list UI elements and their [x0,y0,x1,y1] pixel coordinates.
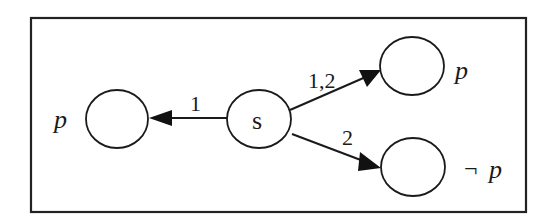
edge-s-to-top-right [290,70,381,110]
top-right-prop-label: p [453,56,468,85]
edge-line [292,134,366,162]
node-s-label: s [252,106,262,135]
node-left [86,90,148,148]
node-bottom-right [381,138,445,196]
bottom-right-prop-label: p [487,155,502,184]
edge-s-to-bottom-right [292,134,381,171]
edge-top-label: 1,2 [308,68,336,93]
edge-left-label: 1 [190,91,201,116]
diagram-canvas: s p p ¬ p 1 1,2 2 [0,0,549,223]
arrowhead-icon [149,110,172,126]
arrowhead-icon [358,152,381,171]
node-top-right [380,37,444,95]
left-prop-label: p [52,105,67,134]
edge-s-to-left [149,110,227,126]
edge-bottom-label: 2 [342,125,353,150]
negation-symbol: ¬ [464,155,478,181]
